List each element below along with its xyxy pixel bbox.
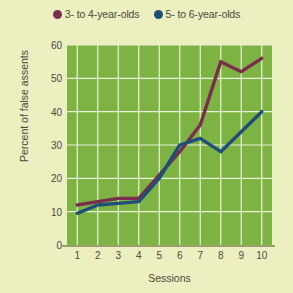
plot-area <box>67 45 272 245</box>
x-tick-label: 10 <box>250 250 274 261</box>
y-axis-title: Percent of false assents <box>18 26 30 186</box>
y-tick-label: 30 <box>36 140 62 151</box>
gridlines <box>67 45 272 245</box>
y-tick-label: 0 <box>36 240 62 251</box>
x-axis-title: Sessions <box>67 272 272 284</box>
legend-item-3-to-4-year-olds: 3- to 4-year-olds <box>53 8 140 20</box>
chart-canvas <box>67 45 272 245</box>
legend-item-5-to-6-year-olds: 5- to 6-year-olds <box>154 8 241 20</box>
legend-label: 5- to 6-year-olds <box>166 8 241 20</box>
x-axis-ticks: 12345678910 <box>0 250 293 266</box>
x-axis-line <box>62 245 275 247</box>
y-tick-label: 50 <box>36 73 62 84</box>
series-line-2 <box>77 112 262 214</box>
y-tick-label: 10 <box>36 206 62 217</box>
y-tick-label: 60 <box>36 40 62 51</box>
y-tick-label: 40 <box>36 106 62 117</box>
series-lines <box>77 58 262 213</box>
legend-label: 3- to 4-year-olds <box>65 8 140 20</box>
series-line-1 <box>77 58 262 205</box>
chart-figure: 3- to 4-year-olds 5- to 6-year-olds Perc… <box>0 0 293 293</box>
y-tick-label: 20 <box>36 173 62 184</box>
legend-marker-circle-icon <box>154 10 163 19</box>
